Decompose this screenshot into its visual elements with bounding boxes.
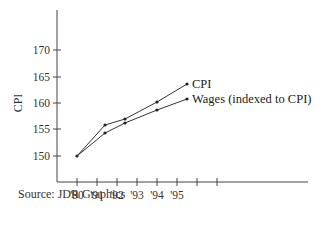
x-tick-label-93: '93 bbox=[130, 189, 144, 201]
y-tick-label-150: 150 bbox=[33, 150, 51, 162]
series-wages-line bbox=[77, 99, 187, 156]
legend-label-cpi: CPI bbox=[192, 77, 211, 91]
x-tick-label-95: '95 bbox=[170, 189, 184, 201]
y-tick-label-155: 155 bbox=[33, 123, 51, 135]
y-tick-label-165: 165 bbox=[33, 71, 51, 83]
y-tick-label-160: 160 bbox=[33, 97, 51, 109]
x-tick-label-94: '94 bbox=[150, 189, 164, 201]
legend-label-wages: Wages (indexed to CPI) bbox=[192, 92, 311, 106]
y-axis-title: CPI bbox=[11, 94, 25, 113]
y-tick-label-170: 170 bbox=[33, 44, 51, 56]
source-note: Source: JDR Graphics bbox=[18, 187, 125, 202]
